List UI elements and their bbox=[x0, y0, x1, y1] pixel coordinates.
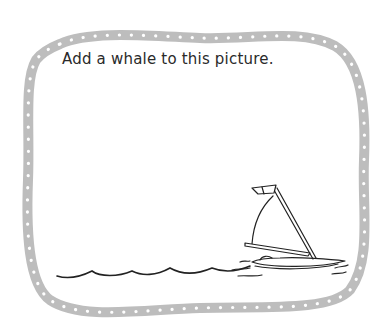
border-dots bbox=[27, 35, 364, 312]
sailboat bbox=[232, 185, 348, 276]
worksheet-prompt: Add a whale to this picture. bbox=[62, 50, 274, 68]
dotted-border bbox=[27, 35, 364, 312]
wave-line bbox=[57, 266, 250, 278]
